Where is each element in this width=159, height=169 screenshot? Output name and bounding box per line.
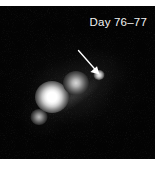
day-label: Day 76–77 bbox=[90, 16, 147, 28]
figure-root: Day 76–77 bbox=[0, 0, 159, 169]
margin-bottom bbox=[0, 159, 159, 169]
margin-right bbox=[155, 0, 159, 169]
astronomy-image-panel: Day 76–77 bbox=[0, 6, 155, 159]
margin-top bbox=[0, 0, 159, 6]
detector-noise-grain bbox=[0, 6, 155, 159]
